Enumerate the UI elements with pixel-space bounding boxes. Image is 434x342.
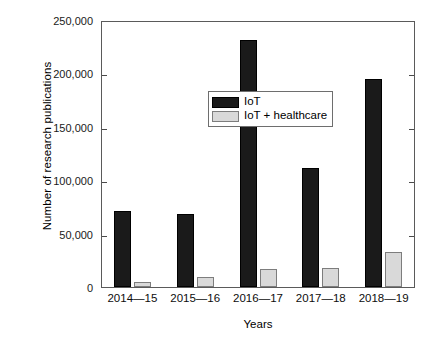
y-tick-mark — [409, 129, 414, 130]
y-tick-mark — [409, 75, 414, 76]
bar-iot-2014—15 — [114, 211, 131, 287]
light-gray-swatch-icon — [212, 111, 239, 122]
x-tick-label: 2014—15 — [107, 292, 157, 304]
x-axis-title: Years — [101, 318, 415, 330]
y-tick-label: 50,000 — [59, 229, 93, 241]
y-tick-mark — [102, 182, 107, 183]
plot-area: IoT IoT + healthcare — [101, 21, 415, 288]
y-tick-mark — [409, 236, 414, 237]
legend-item-iot: IoT — [212, 95, 327, 109]
x-tick-label: 2015—16 — [170, 292, 220, 304]
y-tick-label: 250,000 — [53, 15, 93, 27]
y-tick-label: 0 — [87, 282, 93, 294]
y-tick-label: 200,000 — [53, 68, 93, 80]
bar-iot-healthcare-2018—19 — [385, 252, 402, 287]
chart-legend: IoT IoT + healthcare — [208, 91, 333, 127]
y-tick-label: 150,000 — [53, 122, 93, 134]
bar-iot-2016—17 — [240, 40, 257, 287]
bar-iot-2017—18 — [302, 168, 319, 287]
black-swatch-icon — [212, 97, 239, 108]
y-tick-label: 100,000 — [53, 175, 93, 187]
bar-iot-healthcare-2017—18 — [322, 268, 339, 287]
x-tick-label: 2016—17 — [233, 292, 283, 304]
y-axis-title: Number of research publications — [41, 6, 53, 286]
bar-iot-healthcare-2015—16 — [197, 277, 214, 287]
y-tick-mark — [409, 182, 414, 183]
bar-iot-2015—16 — [177, 214, 194, 287]
x-tick-label: 2017—18 — [296, 292, 346, 304]
x-tick-label: 2018—19 — [359, 292, 409, 304]
bar-iot-2018—19 — [365, 79, 382, 287]
legend-label-iot: IoT — [244, 96, 261, 108]
y-tick-mark — [102, 236, 107, 237]
bar-iot-healthcare-2016—17 — [260, 269, 277, 287]
bar-chart-figure: Number of research publications 050,0001… — [0, 0, 434, 342]
y-tick-mark — [102, 129, 107, 130]
legend-label-iot-healthcare: IoT + healthcare — [244, 110, 327, 122]
bar-iot-healthcare-2014—15 — [134, 282, 151, 287]
legend-item-iot-healthcare: IoT + healthcare — [212, 109, 327, 123]
y-tick-mark — [102, 75, 107, 76]
